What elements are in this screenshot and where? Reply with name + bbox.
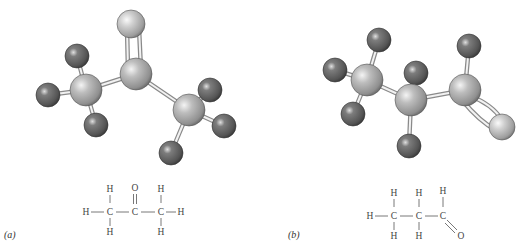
atom-label: H xyxy=(107,184,114,194)
atom-label: H xyxy=(416,188,423,198)
atom-label: C xyxy=(132,207,138,217)
atom-label: C xyxy=(107,207,113,217)
hydrogen-atom xyxy=(198,78,222,102)
atom-label: H xyxy=(158,184,165,194)
hydrogen-atom xyxy=(323,58,347,82)
hydrogen-atom xyxy=(397,134,421,158)
oxygen-atom xyxy=(117,10,145,38)
atom-label: H xyxy=(178,207,185,217)
atom-label: C xyxy=(440,211,446,221)
carbon-atom xyxy=(70,74,102,106)
hydrogen-atom xyxy=(404,61,428,85)
atom-label: H xyxy=(440,186,447,196)
atom-label: C xyxy=(158,207,164,217)
oxygen-atom xyxy=(489,114,515,140)
panel-label-a: (a) xyxy=(4,229,16,240)
atom-label: H xyxy=(107,227,114,237)
atom-label: H xyxy=(391,231,398,241)
hydrogen-atom xyxy=(65,44,89,68)
hydrogen-atom xyxy=(457,34,481,58)
panel-label-b: (b) xyxy=(288,229,300,240)
ball-stick-model-a xyxy=(36,10,236,165)
hydrogen-atom xyxy=(84,113,108,137)
carbon-atom xyxy=(351,64,383,96)
atom-label: H xyxy=(83,207,90,217)
hydrogen-atom xyxy=(367,28,391,52)
structural-formula-a: H H C H O C H C H H xyxy=(83,183,185,237)
atom-label: H xyxy=(416,231,423,241)
carbon-atom xyxy=(173,94,205,126)
atom-label: C xyxy=(391,211,397,221)
hydrogen-atom xyxy=(341,102,365,126)
carbon-atom xyxy=(395,84,427,116)
structural-formula-b: H H C H H C H H C O xyxy=(367,186,465,241)
atom-label: H xyxy=(391,188,398,198)
atom-label: H xyxy=(158,227,165,237)
hydrogen-atom xyxy=(36,83,60,107)
atom-label: C xyxy=(416,211,422,221)
hydrogen-atom xyxy=(159,141,183,165)
carbon-atom xyxy=(449,74,481,106)
hydrogen-atom xyxy=(212,114,236,138)
atom-label: O xyxy=(458,231,465,241)
atom-label: H xyxy=(367,211,374,221)
molecule-figure: H H C H O C H C H H H H C H H C H H xyxy=(0,0,524,246)
carbon-atom xyxy=(120,58,152,90)
atom-label: O xyxy=(132,183,139,193)
ball-stick-model-b xyxy=(323,28,515,158)
